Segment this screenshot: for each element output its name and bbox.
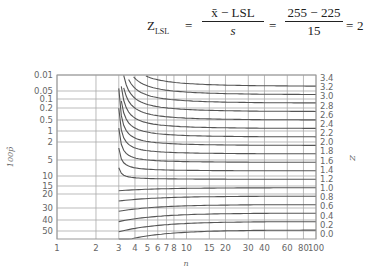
z-curve xyxy=(119,148,316,171)
x-axis-tick-labels: 1234567810152030406080100 xyxy=(54,243,324,253)
x-tick-label: 60 xyxy=(282,243,293,253)
y-tick-label: 50 xyxy=(42,226,53,236)
z-curve xyxy=(121,86,316,128)
x-tick-label: 40 xyxy=(259,243,270,253)
x-tick-label: 20 xyxy=(220,243,231,253)
z-curve xyxy=(146,76,316,86)
x-tick-label: 4 xyxy=(132,243,137,253)
y-tick-label: 30 xyxy=(42,203,53,213)
z-axis-tick-labels: 3.43.23.02.82.62.42.22.01.81.61.41.21.00… xyxy=(320,73,334,239)
x-tick-label: 30 xyxy=(243,243,254,253)
x-tick-label: 3 xyxy=(116,243,121,253)
x-tick-label: 15 xyxy=(204,243,215,253)
z-curves xyxy=(119,75,316,239)
x-tick-label: 10 xyxy=(181,243,192,253)
z-curve xyxy=(119,230,316,239)
z-axis-title: Z xyxy=(348,154,357,161)
x-axis-title: n xyxy=(183,259,188,268)
x-tick-label: 1 xyxy=(54,243,59,253)
x-tick-label: 100 xyxy=(308,243,324,253)
y-tick-label: 40 xyxy=(42,215,53,225)
y-tick-label: 1 xyxy=(48,126,53,136)
y-tick-label: 0.5 xyxy=(39,115,53,125)
z-curve xyxy=(119,188,316,191)
x-tick-label: 6 xyxy=(155,243,160,253)
y-axis-tick-labels: 0.010.050.10.20.5125101520304050 xyxy=(34,70,53,236)
y-tick-label: 0.01 xyxy=(34,70,53,80)
y-tick-label: 10 xyxy=(42,171,53,181)
z-curve xyxy=(119,196,316,201)
y-tick-label: 5 xyxy=(48,155,53,165)
x-tick-label: 5 xyxy=(145,243,150,253)
x-tick-label: 8 xyxy=(171,243,176,253)
x-tick-label: 7 xyxy=(164,243,169,253)
y-tick-label: 0.2 xyxy=(39,103,53,113)
x-tick-label: 2 xyxy=(93,243,98,253)
z-chart: 1234567810152030406080100 0.010.050.10.2… xyxy=(0,0,365,276)
y-tick-label: 20 xyxy=(42,189,53,199)
y-axis-title: 100p̂ xyxy=(6,147,15,168)
z-tick-label: 0.0 xyxy=(320,229,334,239)
y-tick-label: 2 xyxy=(48,137,53,147)
